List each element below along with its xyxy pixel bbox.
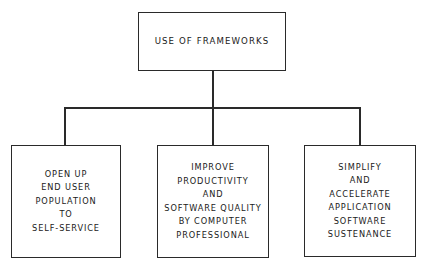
child-2-line-2: PRODUCTIVITY [177,175,248,189]
child-1-line-3: POPULATION [35,195,96,209]
child-1-line-4: TO [59,208,72,222]
child-3-line-4: APPLICATION [328,201,391,215]
child-2-line-5: BY COMPUTER [179,215,248,229]
root-node-label: USE OF FRAMEWORKS [155,35,270,49]
child-node-open-up-end-user: OPEN UP END USER POPULATION TO SELF-SERV… [11,145,121,258]
connector-right-vertical [359,107,361,145]
child-3-line-1: SIMPLIFY [338,161,382,175]
child-1-line-1: OPEN UP [45,168,88,182]
child-2-line-4: SOFTWARE QUALITY [164,202,261,216]
child-1-line-5: SELF-SERVICE [32,222,100,236]
child-3-line-6: SUSTENANCE [328,228,392,242]
child-2-line-1: IMPROVE [191,161,234,175]
connector-middle-vertical [212,107,214,145]
root-node-use-of-frameworks: USE OF FRAMEWORKS [138,12,286,71]
child-node-improve-productivity: IMPROVE PRODUCTIVITY AND SOFTWARE QUALIT… [157,145,269,258]
connector-left-vertical [64,107,66,145]
child-3-line-2: AND [350,174,371,188]
child-3-line-3: ACCELERATE [329,188,390,202]
child-2-line-3: AND [203,188,224,202]
child-1-line-2: END USER [41,181,90,195]
connector-root-vertical [212,70,214,108]
child-node-simplify-accelerate: SIMPLIFY AND ACCELERATE APPLICATION SOFT… [304,145,416,257]
child-2-line-6: PROFESSIONAL [176,229,249,243]
child-3-line-5: SOFTWARE [334,215,387,229]
